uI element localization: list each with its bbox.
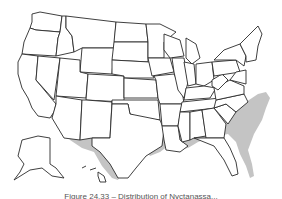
state-hawaii (82, 166, 106, 182)
state-oregon (22, 28, 60, 56)
state-arizona (52, 96, 82, 140)
state-wyoming (80, 48, 114, 74)
state-kentucky (184, 86, 216, 100)
state-nebraska (112, 60, 154, 78)
state-montana (66, 16, 116, 52)
state-colorado (86, 74, 124, 102)
state-south-dakota (112, 42, 148, 62)
state-wisconsin (164, 34, 184, 58)
state-ohio (196, 62, 214, 86)
state-outlines (14, 12, 262, 182)
state-north-dakota (114, 22, 148, 42)
state-iowa (148, 58, 174, 76)
state-alaska (14, 136, 64, 180)
state-florida (194, 138, 238, 176)
state-kansas (124, 78, 158, 98)
state-washington (30, 12, 62, 32)
state-michigan (186, 38, 200, 64)
state-new-mexico (80, 100, 112, 140)
figure-caption: Figure 24.33 – Distribution of Nyctanass… (0, 192, 282, 199)
us-distribution-map (0, 0, 282, 199)
